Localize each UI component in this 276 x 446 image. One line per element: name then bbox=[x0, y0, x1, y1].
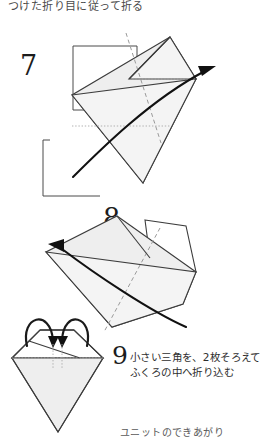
step-9-caption-line-1: 小さい三角を、2枚そろえて bbox=[130, 349, 261, 364]
paper-lower-point bbox=[72, 79, 196, 183]
origami-instruction-page: つけた折り目に従って折る 7 8 bbox=[0, 0, 276, 446]
step-7-diagram bbox=[0, 0, 276, 200]
paper-lower-triangle bbox=[12, 358, 103, 432]
bottom-caption-text: ユニットのできあがり bbox=[120, 424, 224, 439]
step-9-caption-line-2: ふくろの中へ折り込む bbox=[130, 364, 234, 379]
step-9-diagram bbox=[2, 296, 142, 436]
lower-reference-bracket bbox=[43, 140, 100, 196]
